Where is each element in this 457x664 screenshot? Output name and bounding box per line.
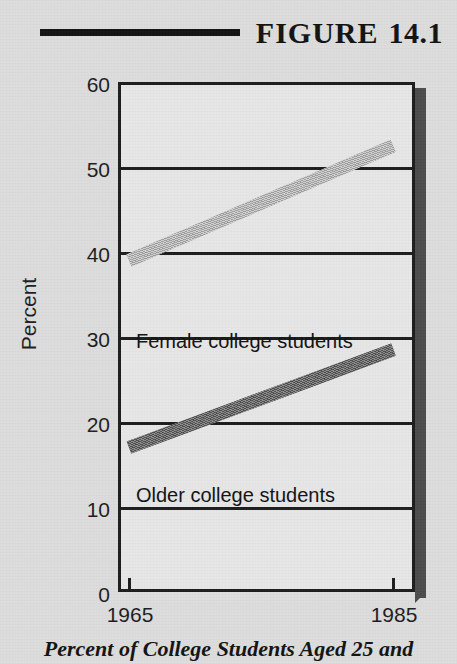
gridline-20: [118, 422, 415, 425]
y-tick-label: 40: [66, 244, 110, 265]
chart-region: Percent 60 50 40 30 20 10 0 Female colle…: [0, 58, 457, 630]
y-axis-tick-labels: 60 50 40 30 20 10 0: [60, 58, 110, 618]
series-label-female: Female college students: [136, 330, 353, 353]
y-axis-title: Percent: [17, 269, 41, 359]
y-tick-label: 10: [66, 499, 110, 520]
x-tick-label-1985: 1985: [371, 603, 418, 627]
x-tick-label-1965: 1965: [107, 603, 154, 627]
plot-frame-shadow: [415, 88, 426, 598]
series-label-older: Older college students: [136, 484, 335, 507]
x-tick-mark-1985: [392, 578, 395, 592]
figure-title: FIGURE14.1: [256, 16, 443, 50]
horizontal-rule-icon: [40, 29, 240, 36]
figure-title-word: FIGURE: [256, 16, 379, 49]
y-tick-label: 60: [66, 74, 110, 95]
figure-header: FIGURE14.1: [0, 12, 457, 54]
figure-caption: Percent of College Students Aged 25 and: [0, 636, 457, 662]
x-tick-mark-1965: [128, 578, 131, 592]
y-tick-label: 20: [66, 414, 110, 435]
gridline-50: [118, 167, 415, 170]
y-tick-label: 50: [66, 159, 110, 180]
y-tick-label: 0: [66, 584, 110, 605]
figure-title-number: 14.1: [389, 16, 444, 49]
y-tick-label: 30: [66, 329, 110, 350]
gridline-10: [118, 507, 415, 510]
